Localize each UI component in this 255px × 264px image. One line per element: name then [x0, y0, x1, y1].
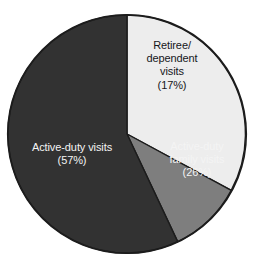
pie-chart-figure: Retiree/ dependent visits (17%) Active-d… [0, 0, 255, 264]
pie-chart-svg [0, 0, 255, 264]
